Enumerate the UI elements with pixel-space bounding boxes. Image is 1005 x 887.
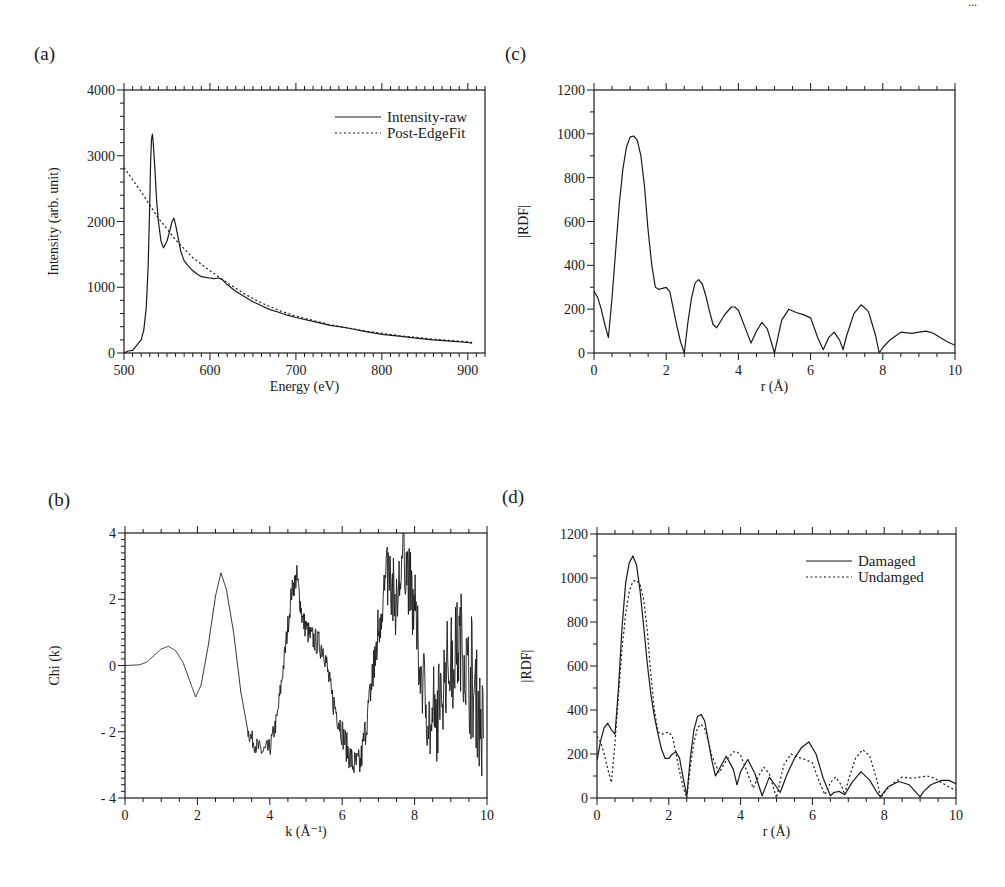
legend-label-post-edgefit: Post-EdgeFit [387,125,466,141]
x-axis-title: Energy (eV) [270,379,340,395]
x-tick-label: 500 [114,363,135,378]
x-tick-label: 8 [881,808,888,823]
x-tick-label: 2 [665,808,672,823]
panel-label: (c) [505,43,526,65]
y-tick-label: 400 [567,703,588,718]
y-tick-label: 200 [567,747,588,762]
series-line-damaged [597,556,956,797]
legend-label-undamged: Undamged [858,569,924,585]
y-tick-label: 1200 [557,83,585,98]
x-tick-label: 6 [339,808,346,823]
y-tick-label: 1000 [560,571,588,586]
panel-d: (d) 0246810020040060080010001200 r (Å) |… [502,486,963,840]
x-tick-label: 8 [411,808,418,823]
y-tick-label: 0 [108,346,115,361]
y-tick-label: 600 [567,659,588,674]
plot-frame [125,533,487,798]
x-tick-label: 10 [480,808,494,823]
x-tick-label: 4 [266,808,273,823]
x-tick-label: 4 [735,363,742,378]
x-tick-label: 0 [594,808,601,823]
x-tick-label: 2 [194,808,201,823]
x-tick-label: 10 [948,363,962,378]
legend-label-damaged: Damaged [858,553,916,569]
y-tick-label: - 2 [101,725,116,740]
y-axis-title: Chi (k) [47,645,63,685]
series-line-rdf [594,136,955,353]
series-line-chi-k- [125,505,483,776]
y-tick-label: 400 [564,258,585,273]
y-tick-label: 1200 [560,527,588,542]
y-axis-title: Intensity (arb. unit) [46,167,62,276]
panel-a: (a) 50060070080090001000200030004000 Ene… [34,43,485,395]
x-tick-label: 600 [199,363,220,378]
x-tick-label: 6 [809,808,816,823]
y-tick-label: 0 [578,346,585,361]
plot-frame [594,90,955,353]
panel-label: (a) [34,43,55,65]
y-tick-label: 800 [567,615,588,630]
legend-label-intensity-raw: Intensity-raw [387,109,467,125]
y-tick-label: 800 [564,171,585,186]
y-tick-label: 2 [109,592,116,607]
x-tick-label: 0 [122,808,129,823]
y-tick-label: 3000 [87,149,115,164]
x-tick-label: 10 [949,808,963,823]
x-axis-title: k (Å⁻¹) [285,824,327,840]
x-tick-label: 900 [457,363,478,378]
data-series [124,134,472,353]
x-axis-title: r (Å) [763,824,791,840]
series-line-intensity-raw [124,134,472,353]
legend: Damaged Undamged [806,553,924,585]
y-tick-label: 4000 [87,83,115,98]
x-tick-label: 8 [879,363,886,378]
data-series [125,505,483,776]
x-tick-label: 800 [371,363,392,378]
figure-canvas: ... (a) 50060070080090001000200030004000… [0,0,1005,887]
x-tick-label: 4 [737,808,744,823]
y-tick-label: 1000 [557,127,585,142]
data-series [594,136,955,353]
y-tick-label: 200 [564,302,585,317]
y-tick-label: 2000 [87,215,115,230]
y-tick-label: 4 [109,526,116,541]
y-tick-label: 0 [109,659,116,674]
panel-label: (d) [502,486,524,508]
x-tick-label: 700 [285,363,306,378]
x-tick-label: 0 [591,363,598,378]
y-axis-title: |RDF| [519,650,534,683]
page-corner-mark: ... [968,0,977,9]
series-line-post-edgefit [124,168,472,343]
x-axis-title: r (Å) [761,379,789,395]
y-tick-label: 600 [564,215,585,230]
panel-label: (b) [48,489,70,511]
panel-c: (c) 0246810020040060080010001200 r (Å) |… [505,43,962,395]
y-tick-label: - 4 [101,791,116,806]
y-axis-title: |RDF| [516,205,531,238]
y-tick-label: 1000 [87,280,115,295]
y-tick-label: 0 [581,791,588,806]
data-series [597,556,956,798]
x-tick-label: 6 [807,363,814,378]
x-tick-label: 2 [663,363,670,378]
legend: Intensity-raw Post-EdgeFit [335,109,467,141]
panel-b: (b) 0246810- 4- 2024 k (Å⁻¹) Chi (k) [47,489,494,840]
